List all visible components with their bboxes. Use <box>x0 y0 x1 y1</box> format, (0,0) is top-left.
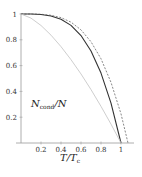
x-tick-label: 0.6 <box>75 146 87 154</box>
x-tick-label: 0.8 <box>95 146 106 154</box>
chart: 0.20.40.60.810.20.40.60.81 Ncond/N T/Tc <box>0 0 142 177</box>
y-tick-label: 0.2 <box>6 114 17 122</box>
y-tick-label: 0.4 <box>6 88 18 96</box>
y-tick-label: 0.8 <box>6 36 17 44</box>
curve-solid-dark <box>21 14 121 143</box>
ticks: 0.20.40.60.810.20.40.60.81 <box>6 11 123 155</box>
x-tick-label: 1 <box>119 146 123 154</box>
curve-solid-light <box>21 14 121 143</box>
y-axis-label: Ncond/N <box>30 98 68 110</box>
curves <box>21 14 128 143</box>
y-tick-label: 1 <box>13 11 17 19</box>
x-tick-label: 0.2 <box>35 146 46 154</box>
y-tick-label: 0.6 <box>6 62 18 70</box>
curve-dashed <box>21 14 128 143</box>
